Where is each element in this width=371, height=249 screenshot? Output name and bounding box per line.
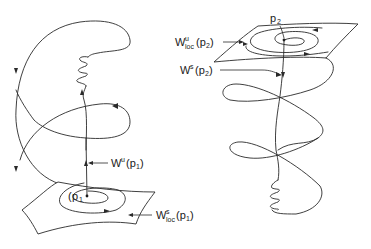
label-wu-loc-p2-sup: u — [185, 35, 189, 42]
lower-loop-left — [16, 90, 130, 160]
arrow-icon — [14, 166, 18, 172]
label-ws-p2-close: ) — [209, 64, 213, 76]
arrow-icon — [276, 72, 282, 77]
label-wu-loc-p2-close: ) — [210, 36, 214, 48]
equilibrium-point-p1 — [86, 195, 89, 198]
leader-line — [220, 70, 279, 74]
heteroclinic-diagram: ( p 1 W u (p 1 ) W s loc (p 1 ) p 2 — [0, 0, 371, 249]
left-panel: ( p 1 W u (p 1 ) W s loc (p 1 ) — [14, 21, 194, 234]
p1-subscript: 1 — [79, 196, 83, 203]
label-ws-loc-p1-arg: (p — [176, 209, 186, 221]
label-wu-p1-close: ) — [140, 157, 144, 169]
label-ws-p2-arg: (p — [195, 64, 205, 76]
label-ws-loc-p1-sup: s — [166, 208, 170, 215]
arrow-icon — [88, 161, 93, 165]
arrow-icon — [80, 89, 84, 95]
label-wu-p1-arg: (p — [126, 157, 136, 169]
label-ws-loc-p1-close: ) — [190, 209, 194, 221]
arrow-icon — [14, 68, 18, 74]
p2-subscript: 2 — [277, 18, 281, 25]
p2-label: p — [270, 12, 276, 24]
coil-top-left — [77, 57, 88, 86]
local-stable-plane-p1 — [22, 182, 155, 234]
coil-bottom-right — [270, 180, 279, 210]
right-panel: p 2 W u loc (p 2 ) W s (p 2 ) — [175, 12, 358, 214]
stable-manifold-p2 — [275, 40, 284, 180]
label-wu-loc-p2-sub: loc — [185, 43, 194, 50]
arrow-icon — [84, 160, 88, 166]
label-wu-loc-p2-arg: (p — [196, 36, 206, 48]
label-ws-p2-sup: s — [190, 63, 194, 70]
p1-label: p — [72, 190, 78, 202]
label-wu-p1-sup: u — [121, 156, 125, 163]
label-ws-loc-p1-sub: loc — [166, 216, 175, 223]
right-loop-upper — [223, 58, 334, 150]
